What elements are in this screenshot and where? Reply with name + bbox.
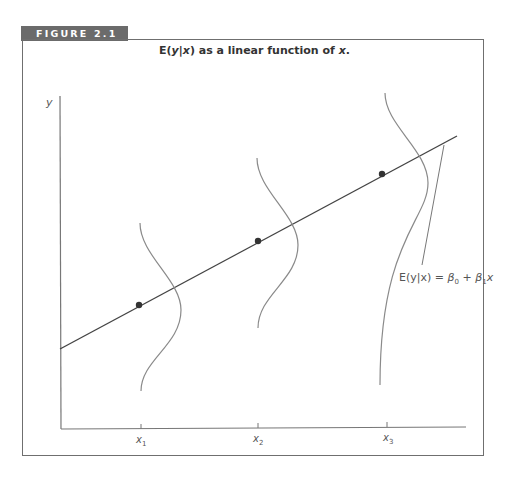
annotation-leader-line <box>422 145 444 265</box>
mean-point-2 <box>255 238 261 244</box>
x-tick-label-3: x3 <box>382 432 393 446</box>
y-axis <box>60 96 61 429</box>
y-axis-label: y <box>45 96 53 109</box>
regression-equation: E(y|x) = β0 + β1x <box>399 271 494 286</box>
x-axis <box>61 427 466 429</box>
x-tick-label-1: x1 <box>135 434 146 448</box>
density-curve-2 <box>257 158 298 328</box>
mean-point-3 <box>379 171 385 177</box>
x-tick-label-2: x2 <box>252 433 263 447</box>
regression-diagram: y x1 x2 x3 E(y|x) = β0 + β1x <box>0 0 509 477</box>
density-curve-1 <box>140 223 181 391</box>
mean-point-1 <box>136 302 142 308</box>
density-curve-3 <box>380 93 428 385</box>
